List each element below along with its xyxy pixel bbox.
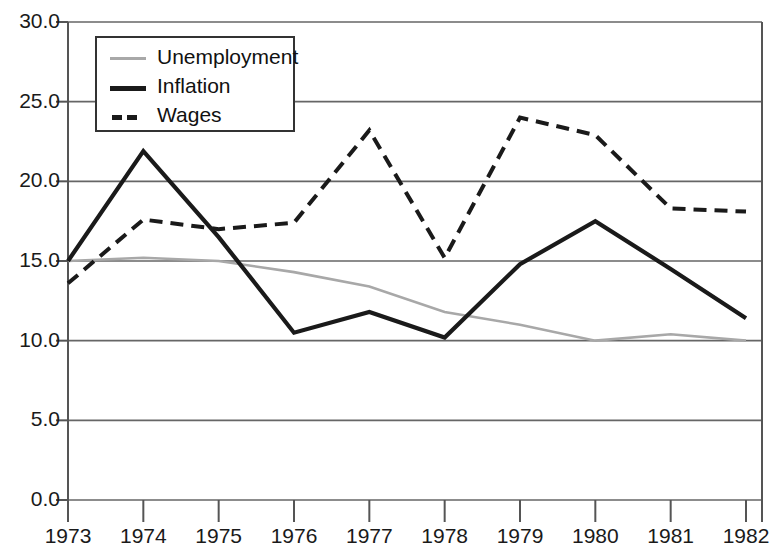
y-tick-label: 5.0 bbox=[0, 407, 60, 431]
x-tick-label: 1979 bbox=[480, 524, 560, 548]
y-tick-label: 0.0 bbox=[0, 487, 60, 511]
legend-swatch-wages bbox=[107, 108, 149, 122]
y-tick-label: 30.0 bbox=[0, 9, 60, 33]
legend-swatch-inflation bbox=[107, 79, 149, 93]
legend-item-unemployment: Unemployment bbox=[107, 42, 298, 72]
data-series bbox=[68, 118, 746, 341]
x-tick-label: 1982 bbox=[706, 524, 774, 548]
x-tick-label: 1981 bbox=[631, 524, 711, 548]
legend-label-wages: Wages bbox=[157, 104, 222, 126]
y-tick-label: 25.0 bbox=[0, 89, 60, 113]
x-tick-label: 1977 bbox=[329, 524, 409, 548]
x-tick-label: 1976 bbox=[254, 524, 334, 548]
x-tick-label: 1974 bbox=[103, 524, 183, 548]
legend-item-wages: Wages bbox=[107, 100, 222, 130]
x-tick-label: 1978 bbox=[405, 524, 485, 548]
legend-label-inflation: Inflation bbox=[157, 75, 231, 97]
x-tick-label: 1973 bbox=[28, 524, 108, 548]
chart-legend: Unemployment Inflation Wages bbox=[95, 36, 295, 132]
y-tick-label: 20.0 bbox=[0, 168, 60, 192]
legend-item-inflation: Inflation bbox=[107, 71, 231, 101]
y-tick-label: 15.0 bbox=[0, 248, 60, 272]
legend-label-unemployment: Unemployment bbox=[157, 46, 298, 68]
series-line-unemployment bbox=[68, 258, 746, 341]
legend-swatch-unemployment bbox=[107, 50, 149, 64]
y-tick-label: 10.0 bbox=[0, 328, 60, 352]
x-tick-label: 1980 bbox=[555, 524, 635, 548]
x-tick-label: 1975 bbox=[179, 524, 259, 548]
series-line-inflation bbox=[68, 151, 746, 337]
